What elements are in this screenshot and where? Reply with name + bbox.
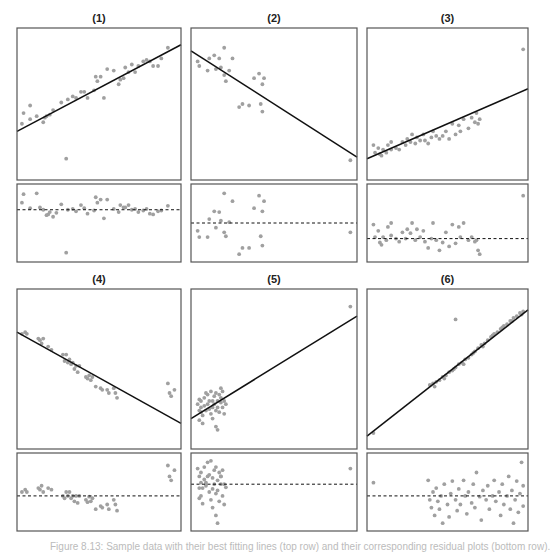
data-point [95, 79, 99, 83]
data-point [397, 148, 401, 152]
residual-point [102, 216, 106, 220]
data-point [94, 75, 98, 79]
residual-point [386, 225, 390, 229]
residual-point [516, 510, 520, 514]
residual-plot-4 [17, 453, 181, 531]
residual-point [20, 201, 24, 205]
residual-point [401, 230, 405, 234]
residual-point [222, 191, 226, 195]
data-point [413, 142, 417, 146]
data-point [209, 412, 213, 416]
residual-point [206, 460, 210, 464]
residual-point [136, 210, 140, 214]
data-point [252, 76, 256, 80]
residual-point [426, 246, 430, 250]
residual-point [405, 227, 409, 231]
data-point [376, 146, 380, 150]
residual-point [40, 484, 44, 488]
residual-point [449, 492, 453, 496]
data-point [217, 57, 221, 61]
data-point [521, 47, 525, 51]
data-point [447, 137, 451, 141]
data-point [247, 104, 251, 108]
residual-point [64, 251, 68, 255]
data-point [41, 337, 45, 341]
residual-point [252, 206, 256, 210]
residual-point [457, 225, 461, 229]
data-point [217, 410, 221, 414]
data-point [259, 102, 263, 106]
residual-point [224, 485, 228, 489]
residual-point [224, 234, 228, 238]
panel-title-2: (2) [244, 12, 304, 24]
data-point [64, 353, 68, 357]
residual-point [410, 221, 414, 225]
residual-point [502, 503, 506, 507]
residual-point [206, 235, 210, 239]
data-point [458, 129, 462, 133]
panel-6 [367, 289, 528, 531]
data-point [79, 90, 83, 94]
fit-line [17, 332, 181, 423]
residual-point [94, 195, 98, 199]
residual-point [64, 490, 68, 494]
data-point [25, 332, 29, 336]
data-point [117, 82, 121, 86]
panel-title-1: (1) [69, 12, 129, 24]
residual-point [216, 489, 220, 493]
residual-point [197, 475, 201, 479]
residual-point [202, 465, 206, 469]
residual-point [221, 494, 225, 498]
residual-point [260, 244, 264, 248]
residual-point [197, 486, 201, 490]
residual-point [465, 512, 469, 516]
residual-point [87, 495, 91, 499]
residual-point [521, 504, 525, 508]
data-point [219, 386, 223, 390]
residual-point [423, 240, 427, 244]
data-point [389, 140, 393, 144]
residual-point [438, 507, 442, 511]
data-point [86, 96, 90, 100]
data-point [28, 117, 32, 121]
data-point [61, 353, 65, 357]
residual-point [92, 209, 96, 213]
data-point [199, 406, 203, 410]
data-point [348, 158, 352, 162]
residual-point [247, 246, 251, 250]
residual-point [521, 484, 525, 488]
fit-plot-4 [17, 289, 181, 449]
residual-point [86, 212, 90, 216]
data-point [476, 122, 480, 126]
data-point [386, 143, 390, 147]
residual-point [199, 471, 203, 475]
residual-point [421, 229, 425, 233]
data-point [105, 67, 109, 71]
residual-point [217, 471, 221, 475]
residual-point [123, 206, 127, 210]
residual-point [484, 498, 488, 502]
residual-point [127, 203, 131, 207]
data-point [380, 154, 384, 158]
residual-point [447, 245, 451, 249]
data-point [166, 46, 170, 50]
residual-point [94, 507, 98, 511]
data-point [102, 96, 106, 100]
residual-point [197, 235, 201, 239]
residual-point [397, 240, 401, 244]
residual-point [478, 252, 482, 256]
data-point [470, 116, 474, 120]
residual-point [118, 203, 122, 207]
plot-frame [17, 289, 181, 449]
residual-point [479, 518, 483, 522]
data-point [82, 90, 86, 94]
residual-point [196, 467, 200, 471]
residual-point [207, 217, 211, 221]
panel-1 [17, 28, 181, 262]
data-point [76, 370, 80, 374]
residual-point [207, 490, 211, 494]
data-point [372, 143, 376, 147]
data-point [64, 157, 68, 161]
plot-frame [367, 28, 528, 180]
residual-point [219, 219, 223, 223]
